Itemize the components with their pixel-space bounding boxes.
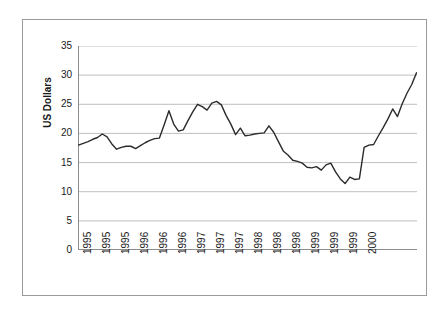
y-tick-label: 35 [61,41,72,51]
x-tick-label: 1996 [178,232,188,254]
x-axis-tick-marks [78,46,417,250]
x-tick-label: 1995 [83,232,93,254]
y-tick-label: 0 [66,245,72,255]
gridlines [78,46,417,221]
x-tick-label: 1998 [273,232,283,254]
x-tick-label: 1998 [292,232,302,254]
y-tick-label: 20 [61,128,72,138]
y-tick-label: 30 [61,70,72,80]
x-tick-label: 1995 [121,232,131,254]
x-tick-label: 1996 [140,232,150,254]
data-series-line [79,73,417,184]
y-axis-tick-labels: 05101520253035 [50,46,72,250]
x-tick-label: 1997 [216,232,226,254]
y-tick-label: 10 [61,187,72,197]
x-tick-label: 1999 [311,232,321,254]
line-chart-svg [78,46,417,250]
x-tick-label: 1995 [102,232,112,254]
chart-figure: US Dollars 05101520253035 19951995199519… [0,0,446,313]
y-tick-label: 15 [61,158,72,168]
x-tick-label: 1998 [254,232,264,254]
x-tick-label: 1997 [235,232,245,254]
x-tick-label: 1999 [349,232,359,254]
plot-area [78,46,417,250]
x-tick-label: 1999 [330,232,340,254]
x-tick-label: 1997 [197,232,207,254]
x-tick-label: 1996 [159,232,169,254]
x-axis-tick-labels: 1995199519951996199619961997199719971998… [78,250,417,296]
y-tick-label: 25 [61,99,72,109]
y-tick-label: 5 [66,216,72,226]
x-tick-label: 2000 [368,232,378,254]
